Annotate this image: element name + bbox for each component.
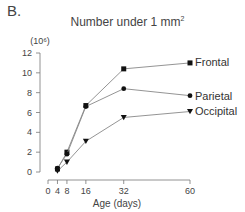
square-marker-icon bbox=[188, 60, 193, 65]
x-axis-title: Age (days) bbox=[93, 198, 141, 209]
x-tick-label: 4 bbox=[55, 186, 60, 196]
y-tick-label: 6 bbox=[27, 108, 32, 118]
circle-marker-icon bbox=[83, 104, 88, 109]
y-tick-label: 4 bbox=[27, 127, 32, 137]
line-chart: 024681012(10⁶)048163260Age (days)Frontal… bbox=[0, 0, 245, 212]
series-label-occipital: Occipital bbox=[195, 105, 237, 117]
y-tick-label: 0 bbox=[27, 167, 32, 177]
x-tick-label: 60 bbox=[185, 186, 195, 196]
x-tick-label: 8 bbox=[64, 186, 69, 196]
y-axis-unit-label: (10⁶) bbox=[30, 36, 50, 46]
circle-marker-icon bbox=[188, 93, 193, 98]
square-marker-icon bbox=[121, 66, 126, 71]
x-tick-label: 16 bbox=[81, 186, 91, 196]
y-tick-label: 8 bbox=[27, 88, 32, 98]
series-line-parietal bbox=[57, 89, 190, 168]
series-label-frontal: Frontal bbox=[195, 56, 229, 68]
y-tick-label: 2 bbox=[27, 147, 32, 157]
y-tick-label: 12 bbox=[22, 48, 32, 58]
x-tick-label: 0 bbox=[45, 186, 50, 196]
series-label-parietal: Parietal bbox=[195, 90, 232, 102]
circle-marker-icon bbox=[121, 86, 126, 91]
x-tick-label: 32 bbox=[119, 186, 129, 196]
series-line-occipital bbox=[57, 112, 190, 172]
circle-marker-icon bbox=[65, 152, 70, 157]
y-tick-label: 10 bbox=[22, 68, 32, 78]
